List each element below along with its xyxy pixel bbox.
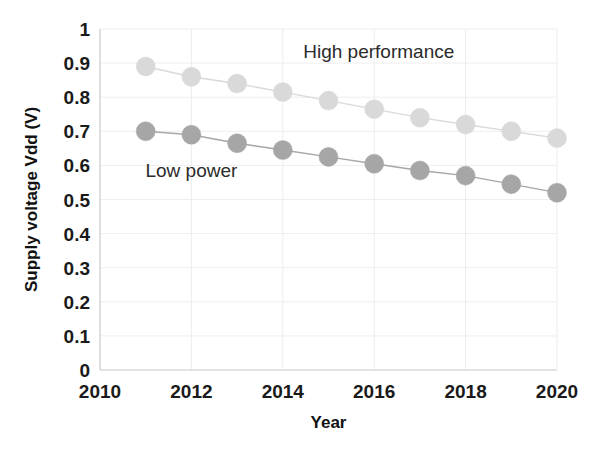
y-tick-label: 1 — [79, 19, 90, 40]
x-tick-label: 2020 — [536, 381, 578, 402]
data-point-marker — [365, 154, 384, 173]
y-tick-label: 0.7 — [64, 121, 90, 142]
data-point-marker — [136, 122, 155, 141]
x-tick-label: 2010 — [79, 381, 121, 402]
y-tick-label: 0 — [79, 360, 90, 381]
series-label-high-performance: High performance — [303, 41, 454, 62]
data-point-marker — [456, 115, 475, 134]
x-tick-label: 2016 — [353, 381, 395, 402]
data-point-marker — [273, 141, 292, 160]
series-label-low-power: Low power — [145, 160, 238, 181]
data-point-marker — [502, 122, 521, 141]
x-axis-title: Year — [311, 413, 347, 432]
y-tick-label: 0.9 — [64, 53, 90, 74]
data-point-marker — [182, 125, 201, 144]
data-point-marker — [502, 175, 521, 194]
data-point-marker — [273, 83, 292, 102]
chart-container: 00.10.20.30.40.50.60.70.80.91 2010201220… — [0, 0, 610, 450]
y-tick-label: 0.8 — [64, 87, 90, 108]
data-point-marker — [410, 108, 429, 127]
data-point-marker — [319, 147, 338, 166]
x-tick-label: 2018 — [444, 381, 486, 402]
data-point-marker — [228, 134, 247, 153]
y-tick-label: 0.2 — [64, 292, 90, 313]
x-tick-label: 2012 — [170, 381, 212, 402]
y-tick-label: 0.4 — [64, 224, 91, 245]
y-axis-title: Supply voltage Vdd (V) — [22, 107, 41, 292]
y-tick-label: 0.3 — [64, 258, 90, 279]
data-point-marker — [319, 91, 338, 110]
y-axis-tick-labels: 00.10.20.30.40.50.60.70.80.91 — [64, 19, 91, 381]
line-chart: 00.10.20.30.40.50.60.70.80.91 2010201220… — [0, 0, 610, 450]
data-point-marker — [410, 161, 429, 180]
x-tick-label: 2014 — [262, 381, 305, 402]
data-point-marker — [548, 129, 567, 148]
data-point-marker — [136, 57, 155, 76]
data-point-marker — [456, 166, 475, 185]
data-point-marker — [365, 100, 384, 119]
data-point-marker — [182, 67, 201, 86]
data-point-marker — [548, 183, 567, 202]
data-point-marker — [228, 74, 247, 93]
y-tick-label: 0.5 — [64, 190, 91, 211]
y-tick-label: 0.1 — [64, 326, 91, 347]
y-tick-label: 0.6 — [64, 155, 90, 176]
